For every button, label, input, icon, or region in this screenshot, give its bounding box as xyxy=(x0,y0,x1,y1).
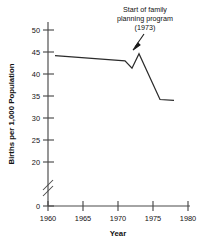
y-tick-label: 20 xyxy=(32,158,40,167)
y-tick-label: 25 xyxy=(32,136,40,145)
annotation-line-2: planning program xyxy=(117,14,173,23)
annotation-line-3: (1973) xyxy=(135,23,156,32)
x-tick-label: 1970 xyxy=(110,214,126,223)
y-tick-label: 35 xyxy=(32,92,40,101)
annotation-arrow-icon xyxy=(133,34,144,50)
y-tick-label: 40 xyxy=(32,70,40,79)
y-axis-title: Births per 1,000 Population xyxy=(7,63,16,164)
y-tick-label: 30 xyxy=(32,114,40,123)
x-tick-label: 1975 xyxy=(145,214,161,223)
x-axis-title: Year xyxy=(110,229,126,238)
annotation-line-1: Start of family xyxy=(123,5,167,14)
data-series-line xyxy=(55,54,174,101)
y-tick-label: 45 xyxy=(32,48,40,57)
x-tick-label: 1960 xyxy=(40,214,56,223)
x-tick-labels: 1960 1965 1970 1975 1980 xyxy=(40,214,196,223)
chart-figure: 50 45 40 35 30 25 20 0 1960 1965 1970 19… xyxy=(0,0,213,241)
y-tick-label: 0 xyxy=(36,202,40,211)
line-chart: 50 45 40 35 30 25 20 0 1960 1965 1970 19… xyxy=(0,0,213,241)
y-tick-labels: 50 45 40 35 30 25 20 0 xyxy=(32,26,40,211)
y-tick-label: 50 xyxy=(32,26,40,35)
annotation-label: Start of family planning program (1973) xyxy=(117,5,173,32)
x-tick-label: 1965 xyxy=(75,214,91,223)
x-tick-label: 1980 xyxy=(180,214,196,223)
